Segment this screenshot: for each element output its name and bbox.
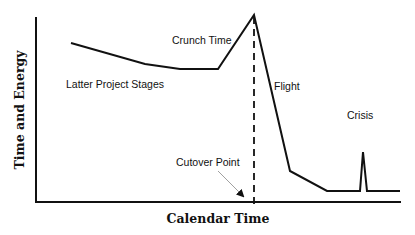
- cutover-arrow: [218, 171, 243, 196]
- label-cutover-point: Cutover Point: [176, 156, 240, 168]
- label-latter-project-stages: Latter Project Stages: [66, 78, 164, 90]
- label-crisis: Crisis: [347, 109, 373, 121]
- x-axis-title: Calendar Time: [167, 211, 270, 226]
- y-axis-title: Time and Energy: [12, 50, 27, 170]
- label-crunch-time: Crunch Time: [172, 34, 232, 46]
- chart: Latter Project Stages Crunch Time Flight…: [0, 0, 415, 235]
- label-flight: Flight: [274, 80, 300, 92]
